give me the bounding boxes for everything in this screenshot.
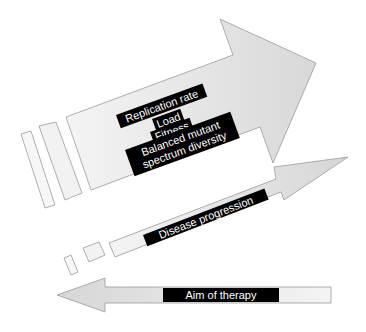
label-disease-progression: Disease progression <box>143 188 269 246</box>
bottom-arrow: Aim of therapy <box>57 278 331 312</box>
middle-arrow-box-2 <box>83 242 105 262</box>
diagram-canvas: Replication rate Load Fitness Balanced m… <box>0 0 366 332</box>
top-arrow-body <box>66 19 316 190</box>
middle-arrow-box-1 <box>64 255 78 275</box>
svg-text:Disease progression: Disease progression <box>157 194 255 241</box>
svg-text:Aim of therapy: Aim of therapy <box>186 289 257 301</box>
top-arrow: Replication rate Load Fitness Balanced m… <box>21 19 316 208</box>
label-aim-of-therapy: Aim of therapy <box>163 288 279 302</box>
